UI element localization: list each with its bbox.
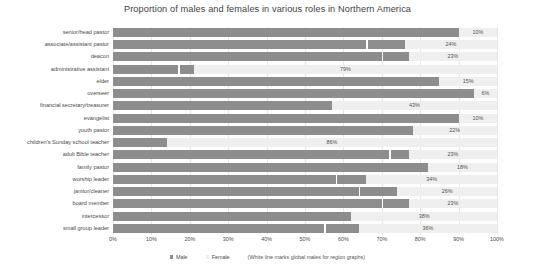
bar-male [113,52,409,61]
bar-male [113,28,459,37]
bar-male [113,65,194,74]
legend-label: Male [176,254,188,260]
global-male-marker [389,150,391,159]
value-label: 26% [442,186,453,197]
category-label: evangelist [84,113,109,124]
value-label: 43% [409,100,420,111]
value-label: 10% [472,113,483,124]
global-male-marker [324,224,326,233]
category-label: worship leader [73,174,109,185]
x-axis-tick: 0% [109,236,117,242]
bar-male [113,150,409,159]
chart-row: associate/assistant pastor24% [113,39,497,51]
value-label: 86% [326,137,337,148]
category-label: administrative assistant [51,64,109,75]
value-label: 22% [449,125,460,136]
category-label: small group leader [63,223,109,234]
value-label: 23% [447,51,458,62]
x-axis-tick: 90% [453,236,464,242]
bar-male [113,89,474,98]
global-male-marker [178,65,180,74]
category-label: adult Bible teacher [63,149,109,160]
category-label: youth pastor [78,125,109,136]
bar-male [113,175,366,184]
category-label: deacon [91,51,109,62]
chart-row: evangelist10% [113,113,497,125]
category-label: board member [73,198,109,209]
bar-male [113,138,167,147]
x-axis-tick: 30% [223,236,234,242]
category-label: janitor/cleaner [74,186,109,197]
category-label: children's Sunday school teacher [27,137,109,148]
gridline [497,27,498,235]
bar-male [113,40,405,49]
legend-swatch-icon [206,255,210,259]
x-axis-tick: 50% [300,236,311,242]
bar-male [113,114,459,123]
chart-row: children's Sunday school teacher86% [113,137,497,149]
category-label: associate/assistant pastor [45,39,109,50]
category-label: family pastor [77,162,109,173]
chart-row: administrative assistant79% [113,64,497,76]
x-axis-tick: 80% [415,236,426,242]
x-axis: 0%10%20%30%40%50%60%70%80%90%100% [113,236,497,248]
value-label: 36% [422,223,433,234]
bar-male [113,163,428,172]
chart-row: adult Bible teacher23% [113,149,497,161]
value-label: 34% [426,174,437,185]
chart-row: board member23% [113,198,497,210]
value-label: 6% [482,88,490,99]
chart-row: senior/head pastor10% [113,27,497,39]
chart-container: Proportion of males and females in vario… [0,0,535,275]
global-male-marker [366,40,368,49]
legend-item[interactable]: Female [206,254,230,260]
bar-male [113,187,397,196]
value-label: 15% [463,76,474,87]
bar-male [113,77,439,86]
legend-swatch-icon [170,255,174,259]
x-axis-tick: 100% [490,236,504,242]
x-axis-tick: 70% [376,236,387,242]
chart-row: intercessor38% [113,211,497,223]
global-male-marker [382,199,384,208]
value-label: 10% [472,27,483,38]
bar-male [113,224,359,233]
chart-row: deacon23% [113,51,497,63]
chart-legend: MaleFemale(White line marks global males… [0,253,535,260]
value-label: 79% [340,64,351,75]
bar-female [113,138,497,147]
global-male-marker [359,187,361,196]
category-label: intercessor [82,211,109,222]
category-label: elder [97,76,109,87]
bar-male [113,101,332,110]
x-axis-tick: 40% [261,236,272,242]
bar-male [113,126,413,135]
chart-row: small group leader36% [113,223,497,235]
legend-item[interactable]: Male [170,254,188,260]
value-label: 23% [447,149,458,160]
x-axis-tick: 10% [146,236,157,242]
value-label: 23% [447,198,458,209]
chart-row: janitor/cleaner26% [113,186,497,198]
value-label: 18% [457,162,468,173]
chart-row: family pastor18% [113,162,497,174]
value-label: 38% [419,211,430,222]
legend-label: Female [212,254,230,260]
global-male-marker [336,175,338,184]
value-label: 24% [446,39,457,50]
chart-row: youth pastor22% [113,125,497,137]
category-label: overseer [87,88,109,99]
category-label: financial secretary/treasurer [40,100,109,111]
chart-row: overseer6% [113,88,497,100]
x-axis-tick: 20% [184,236,195,242]
chart-row: worship leader34% [113,174,497,186]
global-male-marker [382,52,384,61]
bar-male [113,199,409,208]
legend-note: (White line marks global males for regio… [248,254,365,260]
chart-title: Proportion of males and females in vario… [0,4,535,14]
chart-row: elder15% [113,76,497,88]
x-axis-tick: 60% [338,236,349,242]
plot-area: senior/head pastor10%associate/assistant… [113,27,497,235]
bar-male [113,212,351,221]
chart-row: financial secretary/treasurer43% [113,100,497,112]
